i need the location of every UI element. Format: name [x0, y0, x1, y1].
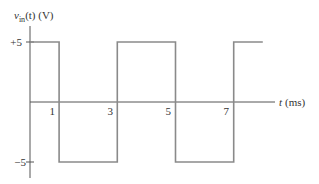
- x-tick-label-3: 3: [108, 105, 114, 117]
- x-axis-label: t(ms): [279, 96, 306, 109]
- square-wave-chart: vin(t) (V) +5 −5 1 3 5 7 t(ms): [0, 0, 319, 184]
- x-tick-label-7: 7: [224, 105, 230, 117]
- x-tick-label-1: 1: [50, 105, 56, 117]
- x-tick-label-5: 5: [166, 105, 172, 117]
- y-tick-label-plus5: +5: [10, 36, 22, 48]
- y-axis-label: vin(t) (V): [14, 9, 54, 24]
- y-tick-label-minus5: −5: [14, 156, 26, 168]
